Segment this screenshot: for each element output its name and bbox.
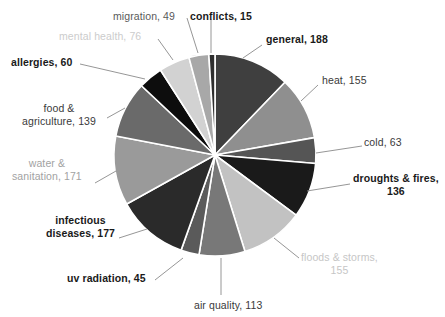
pie-label-droughts-fires: droughts & fires, 136: [353, 172, 439, 198]
pie-label-infectious-diseases: infectious diseases, 177: [46, 214, 115, 240]
leader-line-general: [243, 45, 262, 58]
leader-line-heat: [301, 85, 318, 101]
leader-line-water-sanitation: [95, 171, 116, 183]
leader-line-floods-storms: [274, 238, 299, 258]
pie-label-heat: heat, 155: [322, 74, 367, 87]
leader-line-uv-radiation: [155, 258, 183, 280]
pie-label-conflicts: conflicts, 15: [190, 10, 252, 23]
leader-line-migration: [187, 18, 198, 53]
pie-label-food-agriculture: food & agriculture, 139: [22, 102, 96, 128]
pie-label-migration: migration, 49: [113, 10, 175, 23]
leader-line-cold: [316, 146, 362, 153]
pie-slices-group: [114, 54, 316, 256]
pie-label-allergies: allergies, 60: [11, 56, 72, 69]
leader-line-infectious-diseases: [119, 229, 147, 238]
pie-label-uv-radiation: uv radiation, 45: [67, 272, 146, 285]
leader-line-mental-health: [158, 39, 173, 60]
pie-label-cold: cold, 63: [364, 136, 402, 149]
leader-line-droughts-fires: [307, 184, 350, 191]
pie-label-water-sanitation: water & sanitation, 171: [12, 157, 82, 183]
pie-label-general: general, 188: [266, 33, 328, 46]
pie-label-floods-storms: floods & storms, 155: [301, 251, 378, 277]
pie-label-air-quality: air quality, 113: [194, 299, 262, 312]
pie-chart: general, 188heat, 155cold, 63droughts & …: [0, 0, 445, 317]
pie-label-mental-health: mental health, 76: [59, 30, 141, 43]
leader-line-allergies: [80, 64, 145, 79]
